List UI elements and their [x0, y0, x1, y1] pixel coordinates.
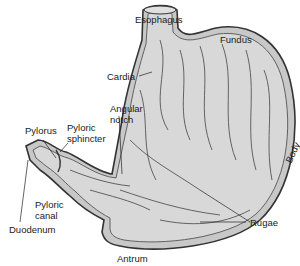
label-pyloric-canal-line1: Pyloric [35, 199, 64, 210]
label-duodenum: Duodenum [9, 224, 55, 235]
esophagus-opening [144, 6, 176, 14]
label-angular-notch-line1: Angular [110, 103, 143, 114]
label-fundus: Fundus [220, 34, 252, 45]
label-pyloric-sphincter-line2: sphincter [67, 133, 106, 144]
label-antrum: Antrum [117, 253, 148, 264]
label-cardia: Cardia [107, 71, 135, 82]
label-rugae: Rugae [250, 217, 278, 228]
label-pylorus: Pylorus [25, 125, 57, 136]
label-pyloric-sphincter-line1: Pyloric [67, 122, 96, 133]
label-esophagus: Esophagus [135, 14, 183, 25]
label-pyloric-canal-line2: canal [35, 210, 58, 221]
label-angular-notch-line2: notch [110, 114, 133, 125]
